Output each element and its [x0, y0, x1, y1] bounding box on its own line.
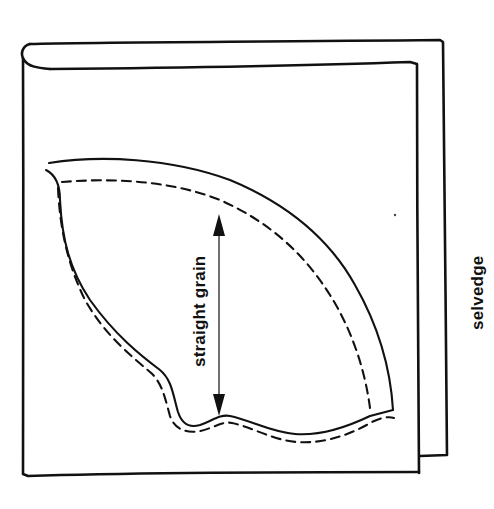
fabric-front-layer [23, 58, 419, 476]
ink-dot [394, 214, 396, 216]
arrow-head-down-icon [213, 394, 225, 416]
straight-grain-label: straight grain [190, 256, 210, 367]
arrow-head-up-icon [213, 214, 225, 236]
selvedge-label: selvedge [468, 256, 488, 330]
seam-line-dashed [58, 180, 394, 442]
straight-grain-arrow [213, 214, 225, 416]
diagram-canvas: straight grain selvedge [0, 0, 494, 509]
fabric-fold [22, 44, 50, 69]
fabric-back-layer [30, 40, 447, 456]
